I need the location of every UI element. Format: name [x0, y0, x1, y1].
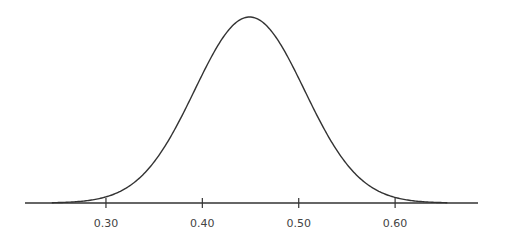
density-curve — [52, 17, 448, 203]
normal-distribution-chart: 0.300.400.500.60 — [0, 0, 506, 241]
x-tick-label: 0.60 — [383, 217, 408, 230]
x-tick-label: 0.40 — [190, 217, 215, 230]
x-tick-label: 0.30 — [94, 217, 119, 230]
x-tick-label: 0.50 — [286, 217, 311, 230]
